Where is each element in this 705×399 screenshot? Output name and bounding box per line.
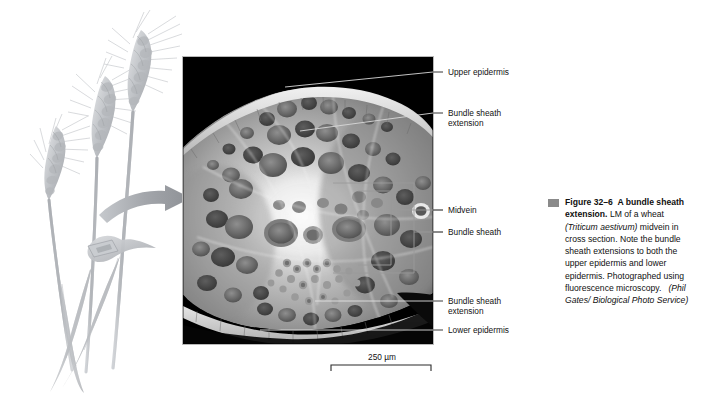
caption-bullet-square: [548, 199, 559, 207]
figure-page: Upper epidermis Bundle sheath extension …: [0, 0, 705, 399]
callout-midvein: Midvein: [448, 205, 477, 215]
scale-bar-label: 250 µm: [330, 352, 434, 362]
figure-caption: Figure 32–6 A bundle sheath extension. L…: [565, 196, 697, 307]
scale-bar-rule: [330, 364, 432, 372]
callout-bundle-sheath-extension-lower: Bundle sheath extension: [448, 296, 501, 317]
caption-species: (Triticum aestivum): [565, 222, 637, 232]
pointer-arrow: [95, 185, 195, 245]
micrograph-image: [183, 57, 433, 344]
callout-bundle-sheath: Bundle sheath: [448, 227, 501, 237]
scale-bar: 250 µm: [330, 352, 434, 376]
callout-upper-epidermis: Upper epidermis: [448, 67, 509, 77]
callout-bundle-sheath-extension-upper: Bundle sheath extension: [448, 108, 501, 129]
caption-body-1: LM of a wheat: [610, 209, 664, 219]
callout-lower-epidermis: Lower epidermis: [448, 325, 509, 335]
caption-figure-number: Figure 32–6: [565, 197, 613, 207]
